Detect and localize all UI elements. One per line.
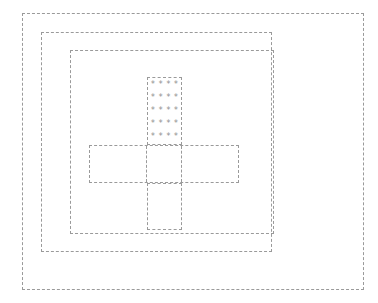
asterisk-grid-box: * * * * * * * * * * xyxy=(147,77,182,145)
asterisk-glyph: * xyxy=(158,133,164,141)
asterisk-glyph: * xyxy=(165,120,171,128)
asterisk-row: * * * * xyxy=(150,118,179,130)
crossbar-row xyxy=(89,145,239,183)
cross-shaped-cluster: * * * * * * * * * * xyxy=(71,51,275,235)
asterisk-glyph: * xyxy=(173,120,179,128)
asterisk-glyph: * xyxy=(150,133,156,141)
asterisk-glyph: * xyxy=(150,94,156,102)
asterisk-glyph: * xyxy=(173,94,179,102)
asterisk-row: * * * * xyxy=(150,131,179,143)
asterisk-glyph: * xyxy=(150,107,156,115)
lower-vertical-box xyxy=(147,183,182,230)
asterisk-glyph: * xyxy=(150,81,156,89)
asterisk-glyph: * xyxy=(173,81,179,89)
asterisk-row: * * * * xyxy=(150,105,179,117)
asterisk-glyph: * xyxy=(150,120,156,128)
layout-outline-canvas: * * * * * * * * * * xyxy=(0,0,378,303)
crossbar-cell-2 xyxy=(147,146,182,182)
asterisk-glyph: * xyxy=(158,107,164,115)
asterisk-glyph: * xyxy=(165,81,171,89)
crossbar-cell-1 xyxy=(90,146,147,182)
container-frame: * * * * * * * * * * xyxy=(41,32,272,252)
asterisk-glyph: * xyxy=(158,120,164,128)
asterisk-glyph: * xyxy=(158,94,164,102)
asterisk-glyph: * xyxy=(158,81,164,89)
outer-viewport-frame: * * * * * * * * * * xyxy=(22,13,364,290)
asterisk-glyph: * xyxy=(173,133,179,141)
asterisk-row: * * * * xyxy=(150,79,179,91)
asterisk-glyph: * xyxy=(165,94,171,102)
asterisk-glyph: * xyxy=(165,133,171,141)
asterisk-glyph: * xyxy=(165,107,171,115)
crossbar-cell-3 xyxy=(182,146,238,182)
content-frame: * * * * * * * * * * xyxy=(70,50,274,234)
asterisk-row: * * * * xyxy=(150,92,179,104)
asterisk-glyph: * xyxy=(173,107,179,115)
